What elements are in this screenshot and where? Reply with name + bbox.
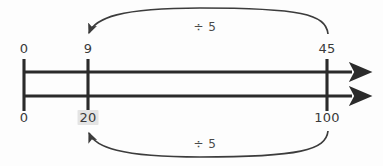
top-tick-label-45: 45 <box>319 41 336 56</box>
top-tick-label-9: 9 <box>84 41 92 56</box>
bottom-tick-label-100: 100 <box>314 110 339 125</box>
bottom-operation-label: ÷ 5 <box>193 137 216 151</box>
top-tick-label-0: 0 <box>20 41 28 56</box>
top-operation-label: ÷ 5 <box>193 20 216 34</box>
bottom-tick-label-0: 0 <box>20 110 28 125</box>
number-line-graphic <box>0 0 383 166</box>
bottom-tick-label-20: 20 <box>78 110 99 125</box>
tick-marks-group <box>24 59 327 111</box>
double-number-line-diagram: 0 9 45 0 20 100 ÷ 5 ÷ 5 <box>0 0 383 166</box>
